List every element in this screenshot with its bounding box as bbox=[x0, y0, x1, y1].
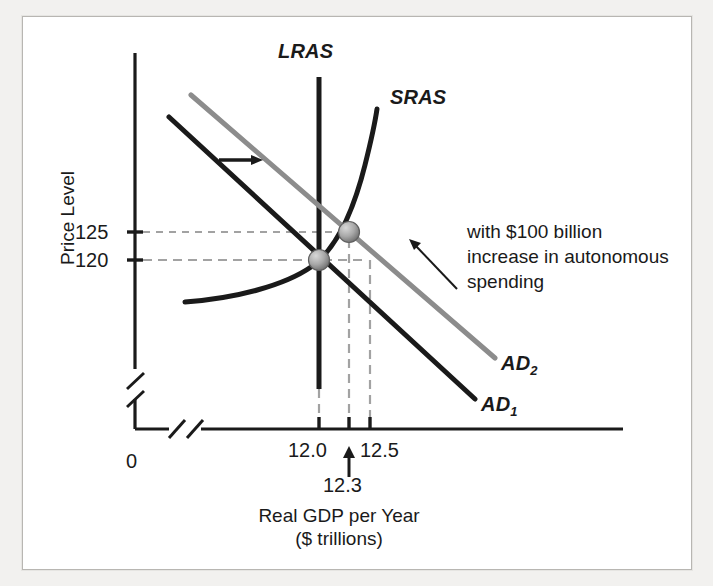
y-tick-label-125: 125 bbox=[75, 220, 108, 244]
callout-line-2: increase in autonomous bbox=[467, 244, 669, 269]
callout-line-3: spending bbox=[467, 269, 669, 294]
shift-arrow-icon bbox=[219, 155, 263, 165]
callout-line-1: with $100 billion bbox=[467, 219, 669, 244]
callout-leader-line bbox=[409, 239, 457, 289]
x-axis-title-line2: ($ trillions) bbox=[209, 527, 469, 550]
ad2-label-text: AD bbox=[501, 352, 530, 374]
lras-label: LRAS bbox=[278, 39, 333, 63]
ad2-label: AD2 bbox=[501, 351, 538, 379]
equilibrium-dot-new bbox=[339, 222, 360, 243]
ad1-label-sub: 1 bbox=[510, 404, 517, 419]
x-axis-title: Real GDP per Year ($ trillions) bbox=[209, 504, 469, 550]
figure-plate: Price Level 125 120 0 12.0 12.5 12.3 LRA… bbox=[22, 16, 692, 570]
figure-page: Price Level 125 120 0 12.0 12.5 12.3 LRA… bbox=[0, 0, 713, 586]
aggregate-demand-supply-chart: Price Level 125 120 0 12.0 12.5 12.3 LRA… bbox=[23, 17, 691, 569]
x-tick-label-12-3: 12.3 bbox=[323, 473, 362, 497]
ad2-label-sub: 2 bbox=[530, 363, 537, 378]
x-axis-break-mark bbox=[169, 420, 185, 438]
x-axis-title-line1: Real GDP per Year bbox=[209, 504, 469, 527]
sras-label: SRAS bbox=[390, 85, 446, 109]
ad1-label-text: AD bbox=[481, 393, 510, 415]
x-tick-label-12-0: 12.0 bbox=[288, 438, 327, 462]
equilibrium-dot-initial bbox=[309, 250, 330, 271]
shift-callout-annotation: with $100 billion increase in autonomous… bbox=[467, 219, 669, 294]
x-axis-break-mark bbox=[187, 420, 203, 438]
origin-label: 0 bbox=[126, 449, 137, 473]
x-tick-label-12-5: 12.5 bbox=[360, 438, 399, 462]
y-axis-break-mark bbox=[127, 373, 144, 389]
y-tick-label-120: 120 bbox=[75, 248, 108, 272]
ad1-label: AD1 bbox=[481, 392, 518, 420]
